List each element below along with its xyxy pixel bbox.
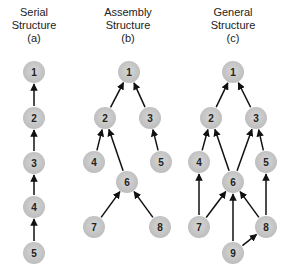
node-c-8: 8 <box>255 216 277 238</box>
node-label: 2 <box>208 113 214 124</box>
node-b-4: 4 <box>83 151 105 173</box>
node-c-5: 5 <box>255 151 277 173</box>
node-a-2: 2 <box>23 107 45 129</box>
node-label: 1 <box>126 67 132 78</box>
node-b-8: 8 <box>149 216 171 238</box>
node-label: 1 <box>230 67 236 78</box>
node-label: 5 <box>31 248 37 259</box>
edge-c-4-to-2 <box>202 130 208 151</box>
node-label: 2 <box>31 113 37 124</box>
node-label: 2 <box>102 113 108 124</box>
structure-diagrams: 1234512345678123456789 <box>0 0 287 276</box>
edge-b-3-to-1 <box>134 83 145 107</box>
edge-c-6-to-3 <box>237 129 252 170</box>
edge-b-6-to-2 <box>109 129 123 170</box>
node-c-7: 7 <box>188 216 210 238</box>
node-b-1: 1 <box>118 61 140 83</box>
edge-b-5-to-3 <box>153 130 158 151</box>
edge-c-3-to-1 <box>238 83 250 108</box>
node-label: 6 <box>230 177 236 188</box>
node-label: 5 <box>158 157 164 168</box>
edge-b-2-to-1 <box>111 83 124 108</box>
node-label: 8 <box>263 222 269 233</box>
edge-c-2-to-1 <box>216 83 228 107</box>
node-b-2: 2 <box>94 107 116 129</box>
node-label: 3 <box>253 113 259 124</box>
node-label: 3 <box>147 113 153 124</box>
node-a-3: 3 <box>23 152 45 174</box>
node-c-6: 6 <box>222 171 244 193</box>
edge-b-4-to-2 <box>97 130 102 151</box>
node-label: 7 <box>91 222 97 233</box>
node-a-4: 4 <box>23 196 45 218</box>
edge-c-6-to-2 <box>215 129 229 170</box>
node-label: 4 <box>91 157 97 168</box>
node-c-3: 3 <box>245 107 267 129</box>
node-b-5: 5 <box>150 151 172 173</box>
edge-c-8-to-6 <box>240 192 259 218</box>
edge-b-8-to-6 <box>134 192 153 218</box>
node-a-1: 1 <box>23 61 45 83</box>
edge-b-7-to-6 <box>101 192 120 218</box>
node-label: 3 <box>31 158 37 169</box>
node-label: 8 <box>157 222 163 233</box>
node-label: 1 <box>31 67 37 78</box>
node-c-4: 4 <box>188 151 210 173</box>
node-label: 4 <box>196 157 202 168</box>
node-b-3: 3 <box>139 107 161 129</box>
node-a-5: 5 <box>23 242 45 264</box>
node-c-2: 2 <box>200 107 222 129</box>
node-label: 7 <box>196 222 202 233</box>
node-label: 6 <box>124 177 130 188</box>
node-c-9: 9 <box>222 242 244 264</box>
edge-c-9-to-8 <box>242 234 256 245</box>
node-b-7: 7 <box>83 216 105 238</box>
edge-c-7-to-6 <box>206 192 226 218</box>
node-label: 9 <box>230 248 236 259</box>
node-label: 4 <box>31 202 37 213</box>
node-label: 5 <box>263 157 269 168</box>
node-c-1: 1 <box>222 61 244 83</box>
nodes-layer: 1234512345678123456789 <box>23 61 277 264</box>
node-b-6: 6 <box>116 171 138 193</box>
edge-c-5-to-3 <box>259 130 264 151</box>
